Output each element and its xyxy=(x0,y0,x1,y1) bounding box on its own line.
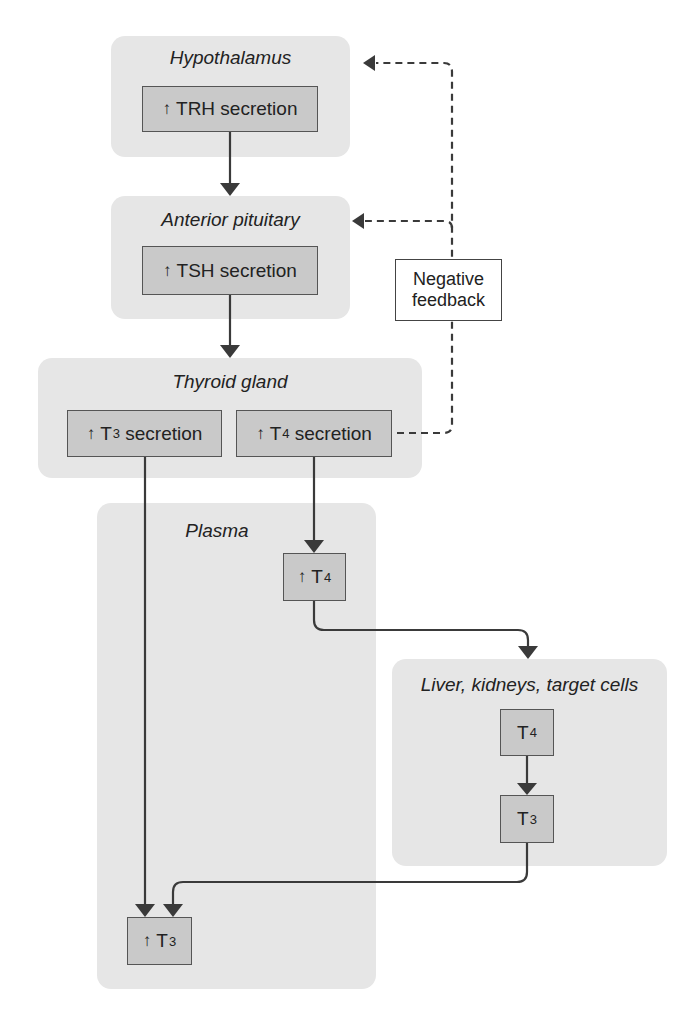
t3-suffix: secretion xyxy=(120,423,202,445)
liver-t3-node: T3 xyxy=(500,795,554,843)
increase-arrow-icon: ↑ xyxy=(163,99,172,119)
increase-arrow-icon: ↑ xyxy=(298,567,307,587)
trh-label: TRH secretion xyxy=(176,98,297,120)
t3-secretion-node: ↑ T3 secretion xyxy=(67,410,222,457)
plasma-t3-node: ↑ T3 xyxy=(127,917,192,965)
liver-t4-base: T xyxy=(517,722,529,744)
plasma-t4-node: ↑ T4 xyxy=(283,553,346,601)
tsh-secretion-node: ↑ TSH secretion xyxy=(142,246,318,295)
connector-lines xyxy=(0,0,694,1021)
t4-suffix: secretion xyxy=(289,423,371,445)
t3-base: T xyxy=(100,423,112,445)
trh-secretion-node: ↑ TRH secretion xyxy=(142,86,318,132)
negative-feedback-label: Negative feedback xyxy=(395,259,502,321)
liver-t4-node: T4 xyxy=(500,709,554,756)
increase-arrow-icon: ↑ xyxy=(256,424,265,444)
liver-t4-subscript: 4 xyxy=(530,725,537,740)
liver-t3-subscript: 3 xyxy=(530,812,537,827)
t3-subscript: 3 xyxy=(113,426,120,441)
plasma-t4-subscript: 4 xyxy=(324,570,331,585)
plasma-t3-subscript: 3 xyxy=(169,934,176,949)
feedback-line-1: Negative xyxy=(413,269,484,290)
plasma-t4-base: T xyxy=(311,566,323,588)
tsh-label: TSH secretion xyxy=(177,260,297,282)
t4-subscript: 4 xyxy=(282,426,289,441)
t4-secretion-node: ↑ T4 secretion xyxy=(236,410,392,457)
t4-base: T xyxy=(270,423,282,445)
increase-arrow-icon: ↑ xyxy=(143,931,152,951)
increase-arrow-icon: ↑ xyxy=(163,261,172,281)
increase-arrow-icon: ↑ xyxy=(87,424,96,444)
liver-t3-base: T xyxy=(517,808,529,830)
feedback-line-2: feedback xyxy=(412,290,485,311)
plasma-t3-base: T xyxy=(156,930,168,952)
